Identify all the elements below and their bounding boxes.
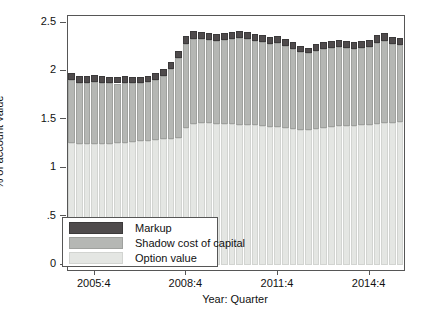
bar-segment-markup [198, 32, 205, 39]
bar-segment-markup [76, 76, 83, 83]
bar-segment-option-value [282, 128, 289, 264]
bar-segment-markup [84, 76, 91, 83]
bar-segment-option-value [297, 130, 304, 265]
legend-label: Option value [135, 252, 197, 264]
bar-segment-shadow-cost-of-capital [313, 51, 320, 129]
y-tick [60, 215, 66, 216]
bar-segment-markup [374, 35, 381, 43]
bar-segment-shadow-cost-of-capital [244, 39, 251, 125]
bar-segment-markup [305, 48, 312, 54]
bar-2014:4 [366, 16, 373, 270]
bar-segment-markup [137, 77, 144, 83]
bar-segment-shadow-cost-of-capital [68, 80, 75, 143]
bar-2012:4 [305, 16, 312, 270]
bar-segment-markup [213, 34, 220, 41]
bar-segment-shadow-cost-of-capital [305, 53, 312, 129]
option-value-swatch [69, 252, 123, 264]
bar-segment-markup [244, 32, 251, 39]
bar-segment-markup [320, 42, 327, 49]
bar-segment-markup [397, 38, 404, 45]
bar-2014:3 [358, 16, 365, 270]
bar-segment-markup [282, 39, 289, 46]
bar-segment-shadow-cost-of-capital [76, 83, 83, 144]
y-tick-label: 2.5 [24, 15, 56, 28]
bar-segment-shadow-cost-of-capital [374, 43, 381, 124]
bar-segment-shadow-cost-of-capital [336, 47, 343, 126]
y-tick-label: 1.5 [24, 112, 56, 125]
bar-segment-shadow-cost-of-capital [99, 83, 106, 144]
x-tick-label: 2014:4 [344, 277, 394, 289]
bar-segment-markup [168, 62, 175, 69]
y-tick [60, 118, 66, 119]
bar-2010:3 [236, 16, 243, 270]
bar-segment-option-value [305, 130, 312, 265]
bar-segment-shadow-cost-of-capital [366, 47, 373, 125]
x-tick [185, 270, 186, 275]
bar-segment-shadow-cost-of-capital [213, 41, 220, 124]
bar-segment-markup [221, 33, 228, 40]
bar-segment-shadow-cost-of-capital [351, 49, 358, 126]
bar-2015:4 [397, 16, 404, 270]
bar-2015:2 [381, 16, 388, 270]
y-tick [60, 70, 66, 71]
figure-canvas: % of account value Year: Quarter Markup … [0, 0, 423, 318]
bar-segment-shadow-cost-of-capital [114, 84, 121, 143]
bar-segment-shadow-cost-of-capital [282, 46, 289, 128]
x-tick-label: 2008:4 [160, 277, 210, 289]
bar-2012:3 [297, 16, 304, 270]
bar-segment-markup [175, 51, 182, 59]
bar-segment-shadow-cost-of-capital [290, 49, 297, 129]
bar-2012:1 [282, 16, 289, 270]
bar-segment-option-value [343, 126, 350, 264]
bar-2014:2 [351, 16, 358, 270]
bar-2015:1 [374, 16, 381, 270]
bar-2011:3 [267, 16, 274, 270]
bar-segment-markup [145, 76, 152, 82]
y-tick-label: .5 [24, 209, 56, 222]
bar-segment-markup [290, 42, 297, 49]
bar-segment-shadow-cost-of-capital [389, 44, 396, 123]
bar-segment-markup [183, 36, 190, 44]
bar-2013:1 [313, 16, 320, 270]
bar-segment-markup [99, 76, 106, 83]
bar-segment-shadow-cost-of-capital [343, 48, 350, 126]
bar-segment-markup [236, 31, 243, 38]
bar-segment-markup [190, 31, 197, 39]
bar-segment-markup [336, 40, 343, 47]
bar-segment-shadow-cost-of-capital [252, 41, 259, 125]
bar-segment-option-value [313, 129, 320, 265]
bar-segment-option-value [351, 126, 358, 264]
bar-segment-markup [259, 35, 266, 42]
bar-segment-markup [229, 32, 236, 39]
bar-2011:4 [274, 16, 281, 270]
bar-segment-markup [328, 41, 335, 48]
bar-2010:4 [244, 16, 251, 270]
y-tick-label: 2 [24, 63, 56, 76]
bar-segment-option-value [274, 127, 281, 264]
y-tick-label: 1 [24, 160, 56, 173]
bar-segment-option-value [320, 128, 327, 264]
bar-segment-shadow-cost-of-capital [190, 39, 197, 124]
y-tick [60, 22, 66, 23]
bar-segment-markup [122, 76, 129, 83]
bar-segment-markup [129, 77, 136, 83]
bar-segment-markup [351, 42, 358, 49]
bar-segment-markup [381, 33, 388, 41]
bar-segment-markup [313, 44, 320, 51]
bar-segment-option-value [374, 124, 381, 264]
bar-segment-option-value [336, 126, 343, 264]
y-tick-label: 0 [24, 257, 56, 270]
x-tick-label: 2005:4 [69, 277, 119, 289]
bar-segment-option-value [397, 122, 404, 264]
bar-segment-shadow-cost-of-capital [160, 76, 167, 139]
bar-segment-shadow-cost-of-capital [91, 82, 98, 144]
bar-2013:2 [320, 16, 327, 270]
bar-segment-markup [114, 77, 121, 84]
bar-2010:1 [221, 16, 228, 270]
bar-segment-option-value [290, 129, 297, 265]
x-axis-title: Year: Quarter [67, 293, 403, 305]
bar-2011:1 [252, 16, 259, 270]
bar-segment-markup [206, 33, 213, 40]
bar-segment-markup [343, 41, 350, 48]
bar-segment-markup [358, 41, 365, 48]
